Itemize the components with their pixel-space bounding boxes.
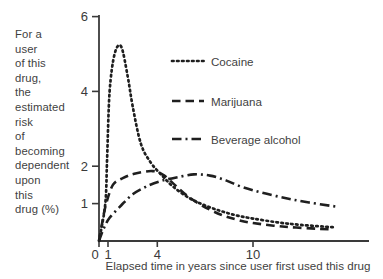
legend-item-cocaine: Cocaine <box>170 54 254 68</box>
y-tick-label: 4 <box>81 84 88 99</box>
y-tick-label: 2 <box>81 159 88 174</box>
legend-label: Cocaine <box>211 55 254 68</box>
series-beverage-alcohol <box>99 174 336 241</box>
legend-item-beverage-alcohol: Beverage alcohol <box>170 132 301 146</box>
figure-canvas: For a user of this drug, the estimated r… <box>0 0 383 279</box>
legend-item-marijuana: Marijuana <box>170 94 262 108</box>
legend-label: Marijuana <box>211 95 262 108</box>
x-axis-label: Elapsed time in years since user first u… <box>88 259 383 272</box>
dashed-line-sample-icon <box>170 95 206 107</box>
dash-dot-line-sample-icon <box>170 133 206 145</box>
series-marijuana <box>99 171 333 241</box>
y-tick-label: 1 <box>81 196 88 211</box>
dotted-line-sample-icon <box>170 55 206 67</box>
y-tick-label: 6 <box>81 9 88 24</box>
legend-label: Beverage alcohol <box>211 133 301 146</box>
